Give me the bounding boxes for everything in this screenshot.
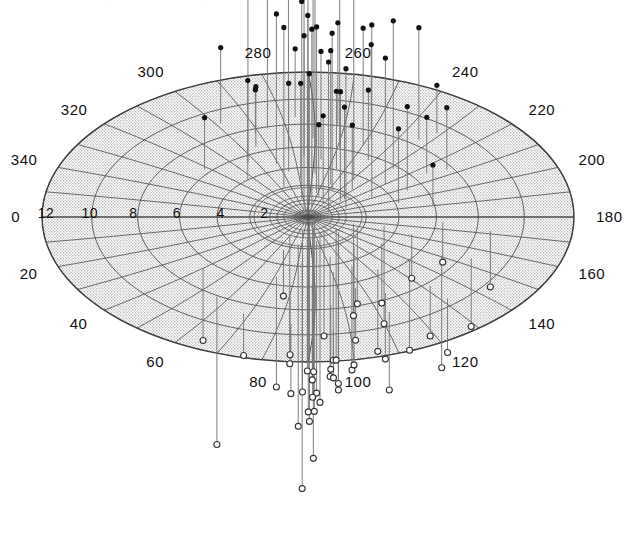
data-marker-filled xyxy=(328,48,333,53)
data-marker-filled xyxy=(383,55,388,60)
radial-tick-label: 10 xyxy=(81,205,98,221)
data-marker-open xyxy=(328,366,334,372)
data-marker-filled xyxy=(253,87,258,92)
data-marker-filled xyxy=(218,45,223,50)
azimuth-tick-label: 100 xyxy=(345,373,372,390)
azimuth-tick-label: 60 xyxy=(146,353,164,370)
data-marker-filled xyxy=(369,22,374,27)
data-marker-filled xyxy=(286,81,291,86)
data-marker-filled xyxy=(307,71,312,76)
data-marker-filled xyxy=(434,83,439,88)
data-marker-filled xyxy=(298,81,303,86)
data-marker-open xyxy=(310,394,316,400)
data-marker-open xyxy=(375,348,381,354)
data-marker-filled xyxy=(274,11,279,16)
data-marker-open xyxy=(273,384,279,390)
data-marker-filled xyxy=(314,24,319,29)
data-marker-open xyxy=(427,333,433,339)
data-marker-filled xyxy=(301,33,306,38)
data-marker-filled xyxy=(361,26,366,31)
azimuth-tick-label: 280 xyxy=(245,44,272,61)
data-marker-open xyxy=(317,399,323,405)
polar-plot: 0204060801001201401601802002202402602803… xyxy=(0,0,633,545)
data-marker-open xyxy=(407,347,413,353)
data-marker-filled xyxy=(202,115,207,120)
azimuth-tick-label: 20 xyxy=(20,265,38,282)
radial-tick-label: 4 xyxy=(217,205,225,221)
azimuth-tick-label: 80 xyxy=(249,373,267,390)
data-marker-open xyxy=(299,389,305,395)
data-marker-open xyxy=(386,387,392,393)
data-marker-open xyxy=(306,418,312,424)
data-marker-open xyxy=(379,300,385,306)
azimuth-tick-label: 140 xyxy=(529,315,556,332)
data-marker-filled xyxy=(335,20,340,25)
data-marker-filled xyxy=(293,46,298,51)
data-marker-filled xyxy=(343,66,348,71)
data-marker-open xyxy=(333,357,339,363)
azimuth-tick-label: 180 xyxy=(596,208,623,225)
data-marker-open xyxy=(288,391,294,397)
data-marker-filled xyxy=(430,162,435,167)
data-marker-open xyxy=(309,377,315,383)
azimuth-tick-label: 0 xyxy=(11,208,20,225)
data-marker-open xyxy=(409,275,415,281)
data-marker-open xyxy=(354,301,360,307)
azimuth-tick-label: 200 xyxy=(579,151,606,168)
azimuth-tick-label: 220 xyxy=(529,101,556,118)
azimuth-tick-label: 160 xyxy=(579,265,606,282)
azimuth-tick-label: 260 xyxy=(345,44,372,61)
data-marker-filled xyxy=(424,115,429,120)
data-marker-open xyxy=(353,337,359,343)
data-marker-open xyxy=(321,333,327,339)
data-marker-open xyxy=(382,356,388,362)
figure-canvas: . . . 0204060801001201401601802002202402… xyxy=(0,0,633,545)
data-marker-filled xyxy=(391,18,396,23)
data-marker-open xyxy=(295,423,301,429)
data-marker-open xyxy=(381,321,387,327)
data-marker-open xyxy=(330,375,336,381)
azimuth-tick-label: 120 xyxy=(452,353,479,370)
data-marker-open xyxy=(335,387,341,393)
radial-tick-label: 2 xyxy=(260,205,268,221)
data-marker-open xyxy=(241,352,247,358)
data-marker-open xyxy=(440,259,446,265)
data-marker-filled xyxy=(321,113,326,118)
data-marker-open xyxy=(287,361,293,367)
data-marker-open xyxy=(351,362,357,368)
data-marker-filled xyxy=(245,78,250,83)
data-marker-filled xyxy=(405,104,410,109)
radial-tick-label: 8 xyxy=(129,205,137,221)
azimuth-tick-label: 320 xyxy=(61,101,88,118)
data-marker-filled xyxy=(396,126,401,131)
data-marker-filled xyxy=(305,13,310,18)
azimuth-tick-label: 340 xyxy=(11,151,38,168)
data-marker-filled xyxy=(299,0,304,4)
data-marker-open xyxy=(200,338,206,344)
data-marker-filled xyxy=(309,27,314,32)
data-marker-open xyxy=(350,313,356,319)
data-marker-open xyxy=(214,441,220,447)
data-marker-filled xyxy=(326,59,331,64)
data-marker-open xyxy=(335,380,341,386)
data-marker-open xyxy=(310,455,316,461)
azimuth-tick-label: 40 xyxy=(70,315,88,332)
data-marker-open xyxy=(311,369,317,375)
data-marker-filled xyxy=(338,89,343,94)
data-marker-filled xyxy=(444,105,449,110)
azimuth-tick-label: 300 xyxy=(137,63,164,80)
azimuth-tick-label: 240 xyxy=(452,63,479,80)
data-marker-filled xyxy=(350,123,355,128)
data-marker-filled xyxy=(281,25,286,30)
data-marker-filled xyxy=(316,122,321,127)
data-marker-open xyxy=(287,352,293,358)
data-marker-open xyxy=(304,368,310,374)
data-marker-filled xyxy=(318,49,323,54)
data-marker-filled xyxy=(366,87,371,92)
data-marker-filled xyxy=(342,104,347,109)
data-marker-open xyxy=(280,293,286,299)
data-marker-open xyxy=(487,284,493,290)
data-marker-open xyxy=(299,486,305,492)
data-marker-filled xyxy=(330,31,335,36)
radial-tick-label: 12 xyxy=(38,205,55,221)
